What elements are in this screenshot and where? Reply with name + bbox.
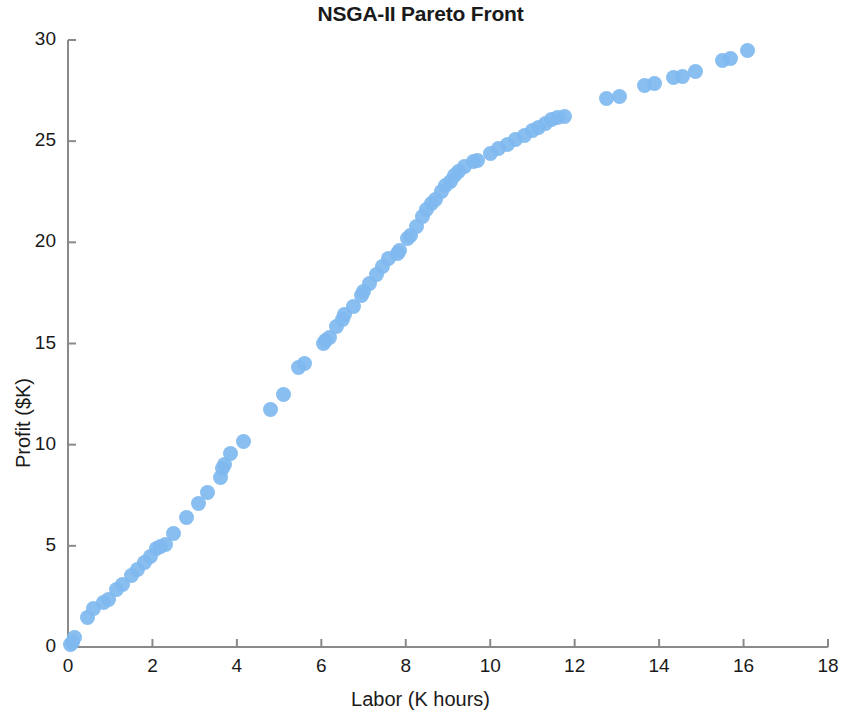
- x-tick-label: 18: [798, 655, 841, 677]
- y-tick-label: 20: [0, 230, 56, 252]
- scatter-point: [612, 89, 627, 104]
- scatter-point: [688, 64, 703, 79]
- scatter-point: [557, 109, 572, 124]
- x-tick-label: 8: [376, 655, 436, 677]
- y-tick-label: 30: [0, 28, 56, 50]
- scatter-point: [647, 76, 662, 91]
- scatter-point: [166, 526, 181, 541]
- x-tick-label: 16: [714, 655, 774, 677]
- x-tick-label: 12: [545, 655, 605, 677]
- x-tick-label: 0: [38, 655, 98, 677]
- x-axis-label: Labor (K hours): [0, 688, 841, 711]
- plot-area: [68, 40, 828, 647]
- scatter-point: [236, 434, 251, 449]
- y-tick-label: 25: [0, 129, 56, 151]
- scatter-point: [200, 485, 215, 500]
- scatter-point: [223, 446, 238, 461]
- scatter-point: [723, 51, 738, 66]
- x-tick-label: 14: [629, 655, 689, 677]
- scatter-point: [276, 387, 291, 402]
- scatter-point: [297, 356, 312, 371]
- y-tick-label: 15: [0, 332, 56, 354]
- scatter-point: [179, 510, 194, 525]
- scatter-point: [740, 43, 755, 58]
- x-tick-label: 6: [291, 655, 351, 677]
- y-axis-label: Profit ($K): [12, 378, 35, 468]
- y-tick-label: 0: [0, 635, 56, 657]
- chart-title: NSGA-II Pareto Front: [0, 2, 841, 26]
- x-tick-label: 10: [460, 655, 520, 677]
- y-tick-label: 5: [0, 534, 56, 556]
- scatter-point: [263, 402, 278, 417]
- x-tick-label: 2: [122, 655, 182, 677]
- chart-figure: NSGA-II Pareto Front 024681012141618 051…: [0, 0, 841, 723]
- x-tick-label: 4: [207, 655, 267, 677]
